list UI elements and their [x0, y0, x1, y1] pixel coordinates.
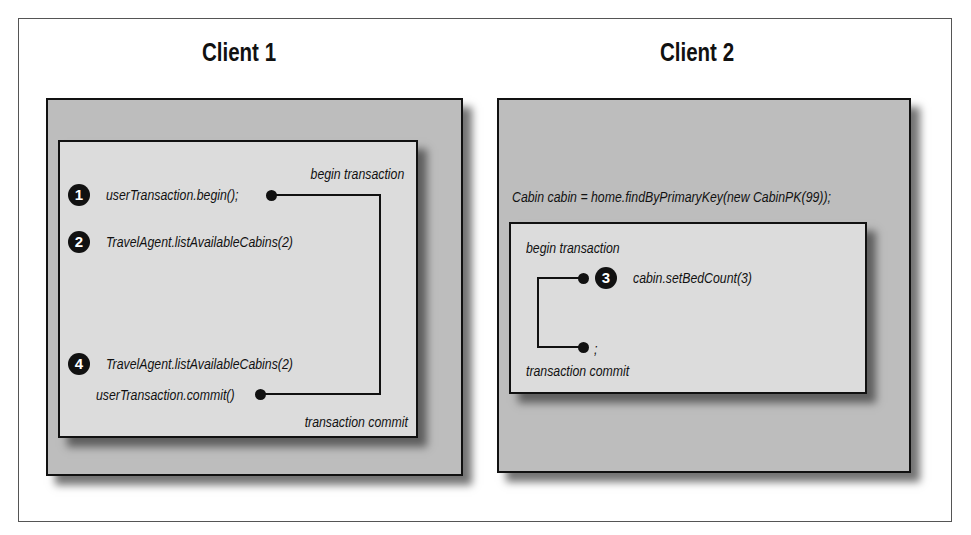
- begin-connector-dot: [578, 273, 589, 284]
- connector-line: [537, 277, 539, 348]
- client2-commit-label: transaction commit: [526, 362, 629, 379]
- client2-lookup-code: Cabin cabin = home.findByPrimaryKey(new …: [512, 188, 831, 205]
- step-2-badge: 2: [68, 231, 90, 253]
- client2-step3-code: cabin.setBedCount(3): [633, 269, 752, 286]
- step-4-badge: 4: [68, 353, 90, 375]
- client1-title: Client 1: [202, 38, 276, 67]
- step-3-badge: 3: [595, 267, 617, 289]
- client1-commit-code: userTransaction.commit(): [96, 386, 235, 403]
- client1-begin-code: userTransaction.begin();: [106, 186, 238, 203]
- connector-line: [379, 194, 381, 394]
- step-1-badge: 1: [68, 184, 90, 206]
- client2-title: Client 2: [660, 38, 734, 67]
- client2-begin-label: begin transaction: [526, 239, 620, 256]
- client2-end-code: ;: [594, 340, 597, 357]
- commit-connector-dot: [578, 342, 589, 353]
- connector-line: [260, 393, 381, 395]
- client1-step4-code: TravelAgent.listAvailableCabins(2): [106, 355, 293, 372]
- client1-commit-label: transaction commit: [305, 413, 408, 430]
- client1-step2-code: TravelAgent.listAvailableCabins(2): [106, 233, 293, 250]
- connector-line: [271, 194, 381, 196]
- connector-line: [537, 277, 583, 279]
- connector-line: [537, 346, 583, 348]
- client1-begin-label: begin transaction: [310, 165, 404, 182]
